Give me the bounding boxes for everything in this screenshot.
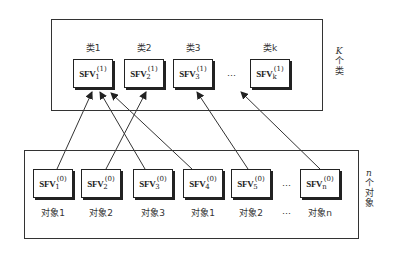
edges-layer [0,0,393,255]
edge-1-to-1 [57,92,92,169]
edge-n-to-k [241,92,320,169]
edge-2-to-2 [106,92,146,169]
edge-5-to-3 [197,92,248,169]
